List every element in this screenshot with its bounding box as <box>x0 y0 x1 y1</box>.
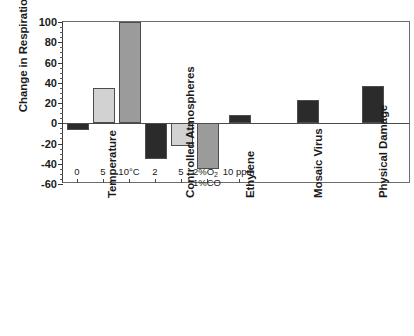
y-tick-label: 0 <box>51 118 57 129</box>
y-tick-label: 40 <box>45 77 57 88</box>
y-tick-label: -20 <box>41 138 57 149</box>
group-label-temperature: Temperature <box>106 130 118 198</box>
y-axis-title: Change in Respiration, % <box>17 0 29 129</box>
x-tick-mark <box>77 179 78 183</box>
y-tick-label: 20 <box>45 98 57 109</box>
group-label-ethylene: Ethylene <box>244 151 256 198</box>
group-label-controlled-atmospheres: Controlled Atmospheres <box>184 66 196 198</box>
x-tick-label: 10°C <box>118 167 139 177</box>
x-tick-mark <box>181 179 182 183</box>
bar-mosaic-virus-0 <box>297 100 319 123</box>
respiration-bar-chart: Change in Respiration, % 100806040200-20… <box>0 0 414 336</box>
x-tick-label: 2%O21%CO <box>193 167 221 188</box>
x-tick-mark <box>103 179 104 183</box>
x-tick-mark <box>129 179 130 183</box>
bar-controlled-atmospheres-2 <box>197 123 219 169</box>
x-tick-label: 5 <box>178 167 183 177</box>
bar-controlled-atmospheres-0 <box>145 123 167 158</box>
bar-temperature-0 <box>67 123 89 130</box>
bar-temperature-1 <box>93 88 115 123</box>
x-tick-mark <box>155 179 156 183</box>
x-tick-label: 2 <box>152 167 157 177</box>
x-tick-label: 0 <box>74 167 79 177</box>
y-tick-label: 60 <box>45 57 57 68</box>
bar-temperature-2 <box>119 22 141 123</box>
bar-ethylene-0 <box>229 115 251 123</box>
group-label-physical-damage: Physical Damage <box>377 105 389 198</box>
y-tick-label: 80 <box>45 37 57 48</box>
x-tick-mark <box>239 179 240 183</box>
y-tick-label: 100 <box>39 17 57 28</box>
y-tick-label: -40 <box>41 158 57 169</box>
y-tick-mark <box>58 184 63 185</box>
x-tick-label: 5 <box>100 167 105 177</box>
group-label-mosaic-virus: Mosaic Virus <box>312 128 324 198</box>
y-tick-label: -60 <box>41 179 57 190</box>
